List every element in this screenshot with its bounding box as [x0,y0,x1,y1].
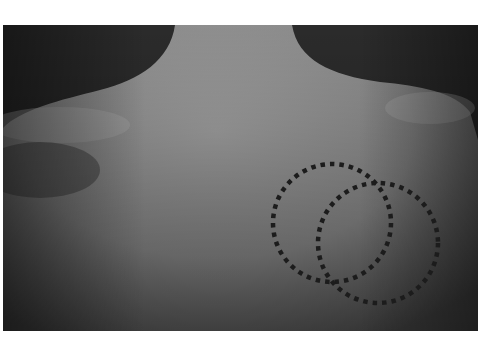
back-photo [3,25,478,331]
photo-canvas [3,25,478,331]
